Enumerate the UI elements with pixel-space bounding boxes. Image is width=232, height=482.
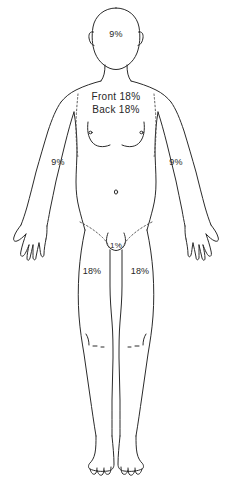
right-foot — [118, 436, 144, 471]
left-hand-finger-4 — [39, 239, 46, 257]
body-outline-illustration — [0, 0, 232, 482]
neck-right — [127, 65, 131, 81]
left-leg-inner — [110, 251, 113, 437]
left-knee-crease — [86, 334, 89, 345]
rule-of-nines-diagram: 9% Front 18% Back 18% 9% 9% 1% 18% 18% — [0, 0, 232, 482]
navel — [114, 190, 117, 194]
torso-percentage-label-group: Front 18% Back 18% — [92, 90, 141, 116]
left-groin-divider — [80, 222, 110, 250]
left-foot — [89, 436, 115, 471]
left-arm-outer — [21, 102, 61, 225]
right-leg-outer — [136, 230, 154, 436]
left-hand-thumb-join — [46, 226, 47, 239]
left-arm-torso-divider — [76, 94, 78, 158]
right-arm-inner — [158, 112, 185, 226]
right-nipple — [140, 131, 143, 134]
torso-front-percentage-label: Front 18% — [92, 90, 141, 103]
right-groin-divider — [122, 222, 152, 250]
torso-back-percentage-label: Back 18% — [92, 103, 141, 116]
right-pectoral — [122, 122, 144, 147]
left-leg-outer — [78, 230, 96, 436]
right-knee-crease — [143, 334, 146, 345]
neck-left — [101, 65, 105, 81]
right-arm-outer — [171, 102, 211, 225]
right-hand-finger-4 — [186, 239, 193, 257]
left-pectoral — [88, 122, 110, 147]
right-ear — [138, 32, 143, 46]
left-nipple — [89, 131, 92, 134]
left-hand-finger-3 — [33, 243, 39, 260]
right-hand-finger-3 — [193, 243, 199, 260]
right-leg-inner — [119, 251, 122, 437]
right-arm-torso-divider — [154, 94, 156, 158]
left-ear — [89, 32, 94, 46]
right-hand-thumb-join — [185, 226, 186, 239]
head-outline — [92, 8, 140, 70]
left-arm-inner — [47, 112, 74, 226]
